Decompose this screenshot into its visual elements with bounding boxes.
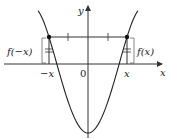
f-neg-x-label: f(−x) [6, 46, 33, 57]
even-function-diagram: y x 0 −x x f(−x) f(x) [0, 0, 170, 139]
bracket-right [130, 38, 134, 63]
point-neg-x [47, 35, 51, 39]
neg-x-label: −x [40, 68, 54, 79]
f-x-label: f(x) [136, 46, 154, 57]
point-pos-x [125, 35, 129, 39]
bracket-left [42, 38, 46, 63]
y-axis-label: y [77, 5, 84, 16]
origin-label: 0 [80, 68, 86, 79]
x-axis-label: x [160, 67, 166, 78]
pos-x-label: x [124, 68, 130, 79]
